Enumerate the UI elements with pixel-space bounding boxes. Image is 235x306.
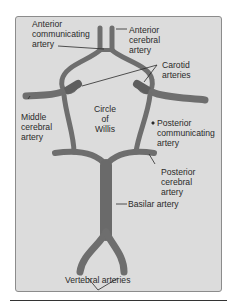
right-posterior-communicating xyxy=(136,95,150,152)
left-posterior-communicating xyxy=(64,95,74,152)
label-middle-cerebral: Middle cerebral artery xyxy=(21,112,52,142)
right-middle-cerebral xyxy=(152,92,205,100)
label-anterior-communicating: Anterior communicating artery xyxy=(32,19,90,49)
bottom-divider xyxy=(10,300,227,301)
right-vertebral xyxy=(106,232,124,272)
label-posterior-cerebral: Posterior cerebral artery xyxy=(161,167,195,197)
label-anterior-cerebral: Anterior cerebral artery xyxy=(129,25,160,55)
label-carotid: Carotid arteries xyxy=(162,60,191,80)
left-middle-cerebral xyxy=(26,92,62,96)
left-posterior-cerebral xyxy=(55,152,106,165)
label-basilar: Basilar artery xyxy=(128,199,179,209)
label-posterior-communicating: Posterior communicating artery xyxy=(157,118,215,148)
label-circle-of-willis: Circle of Willis xyxy=(94,104,116,134)
label-vertebral: Vertebral arteries xyxy=(65,275,130,285)
right-posterior-cerebral xyxy=(106,152,154,165)
left-vertebral xyxy=(80,232,106,272)
